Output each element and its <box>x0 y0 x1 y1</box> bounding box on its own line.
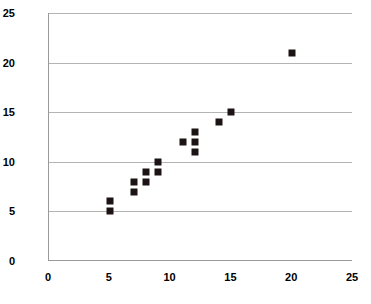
x-tick-label-15: 15 <box>210 272 250 283</box>
gridline-y-10 <box>49 162 352 163</box>
x-tick-label-10: 10 <box>150 272 190 283</box>
data-point <box>143 168 150 175</box>
data-point <box>131 178 138 185</box>
scatter-chart: 0510152025 0510152025 <box>0 0 371 304</box>
gridline-y-25 <box>49 13 352 14</box>
y-tick-label-20: 20 <box>0 57 15 68</box>
data-point <box>228 109 235 116</box>
plot-area <box>48 13 352 261</box>
data-point <box>106 198 113 205</box>
y-tick-label-5: 5 <box>0 206 15 217</box>
y-tick-label-25: 25 <box>0 8 15 19</box>
data-point <box>143 178 150 185</box>
data-point <box>106 208 113 215</box>
data-point <box>216 119 223 126</box>
data-point <box>155 158 162 165</box>
data-point <box>191 129 198 136</box>
gridline-y-20 <box>49 63 352 64</box>
gridline-y-5 <box>49 211 352 212</box>
data-point <box>191 138 198 145</box>
y-tick-label-15: 15 <box>0 107 15 118</box>
data-point <box>289 49 296 56</box>
y-tick-label-10: 10 <box>0 156 15 167</box>
gridline-y-15 <box>49 112 352 113</box>
data-point <box>179 138 186 145</box>
x-tick-label-0: 0 <box>28 272 68 283</box>
x-tick-label-5: 5 <box>89 272 129 283</box>
data-point <box>131 188 138 195</box>
x-tick-label-20: 20 <box>271 272 311 283</box>
data-point <box>191 148 198 155</box>
data-point <box>155 168 162 175</box>
y-tick-label-0: 0 <box>0 256 15 267</box>
x-tick-label-25: 25 <box>332 272 371 283</box>
